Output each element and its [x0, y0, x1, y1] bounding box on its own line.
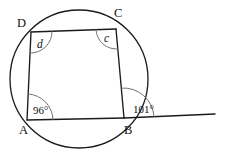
angle-label-c-unknown: c [104, 32, 109, 44]
side-bc [116, 29, 124, 118]
vertex-label-b: B [124, 123, 132, 137]
geometry-canvas: A B C D 96° 101° c d [0, 0, 226, 158]
side-da [27, 32, 31, 120]
vertex-label-d: D [17, 16, 26, 30]
angle-label-a-96: 96° [33, 104, 48, 116]
geometry-diagram: A B C D 96° 101° c d [0, 0, 226, 158]
side-ab [27, 118, 124, 120]
vertex-label-c: C [114, 6, 122, 20]
angle-label-d-unknown: d [37, 38, 43, 50]
angle-label-b-101: 101° [133, 103, 154, 115]
vertex-label-a: A [19, 123, 28, 137]
